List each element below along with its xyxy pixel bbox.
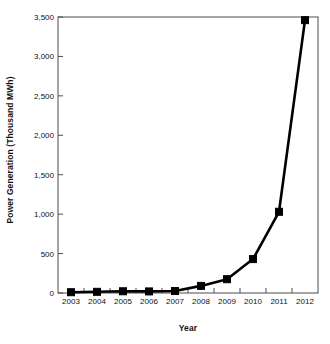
data-line <box>71 20 305 292</box>
plot-frame <box>58 17 318 293</box>
line-chart: Power Generation (Thousand MWh) Year 050… <box>0 0 330 344</box>
data-markers <box>68 17 309 296</box>
y-axis-ticks <box>58 17 63 293</box>
plot-area <box>0 0 330 344</box>
